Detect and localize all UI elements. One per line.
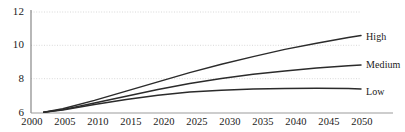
line-chart: 12 10 8 6 2000 2005 2010 2015 2020 2025 … [0,0,405,132]
series-label-medium: Medium [366,59,401,70]
x-tick-label-2005: 2005 [47,116,83,127]
axes [31,10,393,113]
x-tick-label-2030: 2030 [212,116,248,127]
x-tick-label-2045: 2045 [311,116,347,127]
x-tick-label-2015: 2015 [113,116,149,127]
x-tick-label-2040: 2040 [278,116,314,127]
chart-canvas [0,0,405,132]
x-tick-label-2035: 2035 [245,116,281,127]
x-tick-label-2025: 2025 [179,116,215,127]
series-line-high [44,36,361,113]
x-tick-label-2000: 2000 [14,116,50,127]
series-line-low [44,88,361,112]
series-label-low: Low [366,86,385,97]
series-label-high: High [366,31,386,42]
y-tick-label-10: 10 [2,38,24,50]
x-tick-label-2020: 2020 [146,116,182,127]
x-tick-label-2050: 2050 [344,116,380,127]
series-lines [44,36,361,113]
y-tick-label-8: 8 [2,72,24,84]
y-tick-label-12: 12 [2,5,24,17]
x-tick-label-2010: 2010 [80,116,116,127]
